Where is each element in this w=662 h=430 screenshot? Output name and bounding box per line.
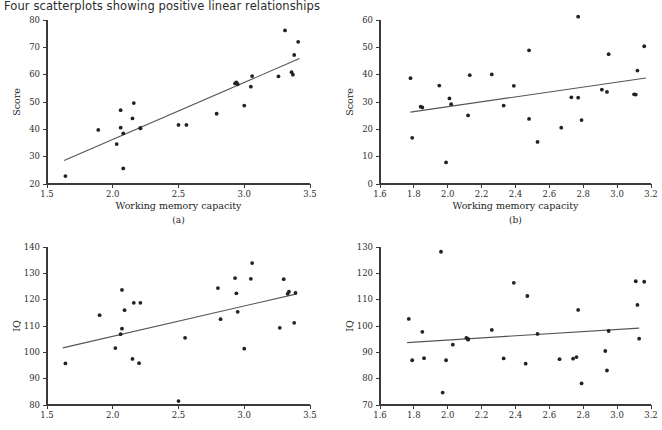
- x-tick-label: 2.0: [441, 189, 455, 199]
- y-tick-label: 50: [29, 97, 40, 107]
- x-tick-label: 2.8: [576, 189, 590, 199]
- data-point: [215, 112, 219, 116]
- data-point: [277, 74, 281, 78]
- data-point: [449, 102, 453, 106]
- data-point: [120, 327, 124, 331]
- data-point: [184, 123, 188, 127]
- data-point: [420, 106, 424, 110]
- x-tick-label: 2.4: [509, 189, 523, 199]
- data-point: [96, 128, 100, 132]
- data-point: [525, 294, 529, 298]
- data-point: [558, 357, 562, 361]
- x-tick-label: 2.0: [106, 189, 120, 199]
- data-point: [502, 356, 506, 360]
- data-point: [524, 362, 528, 366]
- y-tick-label: 30: [29, 151, 40, 161]
- y-tick-label: 20: [362, 124, 373, 134]
- x-tick-label: 1.8: [407, 189, 421, 199]
- data-point: [466, 113, 470, 117]
- data-point: [282, 277, 286, 281]
- x-tick-label: 3.0: [237, 410, 251, 420]
- y-tick-label: 10: [362, 151, 373, 161]
- data-point: [242, 347, 246, 351]
- data-point: [64, 361, 68, 365]
- data-point: [605, 90, 609, 94]
- data-point: [607, 52, 611, 56]
- data-point: [64, 174, 68, 178]
- data-point: [580, 382, 584, 386]
- data-point: [292, 321, 296, 325]
- data-point: [249, 85, 253, 89]
- data-point: [466, 337, 470, 341]
- panel-caption: (b): [509, 215, 522, 225]
- data-point: [448, 97, 452, 101]
- y-tick-label: 40: [362, 69, 373, 79]
- data-point: [441, 391, 445, 395]
- data-point: [287, 290, 291, 294]
- y-tick-label: 0: [368, 179, 373, 189]
- data-point: [119, 126, 123, 130]
- x-tick-label: 3.2: [644, 410, 658, 420]
- x-tick-label: 2.5: [172, 189, 186, 199]
- x-tick-label: 3.0: [610, 410, 624, 420]
- data-point: [605, 369, 609, 373]
- data-point: [250, 261, 254, 265]
- x-tick-label: 1.6: [373, 410, 387, 420]
- y-tick-label: 80: [29, 15, 40, 25]
- data-point: [451, 343, 455, 347]
- data-point: [236, 82, 240, 86]
- data-point: [283, 28, 287, 32]
- x-tick-label: 2.2: [475, 189, 489, 199]
- panel-b-canvas: 01020304050601.61.82.02.22.42.62.83.03.2…: [331, 12, 662, 225]
- y-axis-title: Score: [344, 88, 355, 116]
- x-tick-label: 3.0: [237, 189, 251, 199]
- x-tick-label: 2.6: [543, 410, 557, 420]
- data-point: [296, 40, 300, 44]
- data-point: [115, 142, 119, 146]
- data-point: [138, 126, 142, 130]
- data-point: [569, 95, 573, 99]
- x-tick-label: 2.0: [441, 410, 455, 420]
- data-point: [410, 136, 414, 140]
- y-axis-title: Score: [11, 88, 22, 116]
- data-point: [234, 291, 238, 295]
- data-point: [250, 74, 254, 78]
- y-tick-label: 90: [362, 347, 373, 357]
- data-point: [236, 310, 240, 314]
- data-point: [291, 73, 295, 77]
- data-point: [132, 301, 136, 305]
- data-point: [219, 317, 223, 321]
- regression-line: [407, 328, 639, 342]
- y-tick-label: 110: [357, 294, 373, 304]
- data-point: [603, 349, 607, 353]
- x-tick-label: 3.5: [303, 410, 317, 420]
- data-point: [437, 84, 441, 88]
- data-point: [407, 317, 411, 321]
- data-point: [512, 84, 516, 88]
- data-point: [177, 123, 181, 127]
- scatterplot-panel-a: 203040506070801.52.02.53.03.5ScoreWorkin…: [0, 12, 331, 225]
- scatterplot-panel-c: 80901001101201301401.52.02.53.03.5IQ: [0, 237, 331, 430]
- data-point: [600, 88, 604, 92]
- data-point: [571, 357, 575, 361]
- y-tick-label: 100: [357, 321, 373, 331]
- y-tick-label: 130: [357, 242, 373, 252]
- data-point: [559, 126, 563, 130]
- regression-line: [64, 59, 299, 161]
- data-point: [468, 73, 472, 77]
- data-point: [420, 330, 424, 334]
- y-tick-label: 60: [29, 69, 40, 79]
- data-point: [137, 361, 141, 365]
- data-point-group: [64, 28, 301, 177]
- data-point: [132, 101, 136, 105]
- data-point: [642, 44, 646, 48]
- data-point: [637, 337, 641, 341]
- data-point: [183, 336, 187, 340]
- data-point: [575, 355, 579, 359]
- x-tick-label: 1.6: [373, 189, 387, 199]
- data-point: [634, 279, 638, 283]
- data-point-group: [409, 15, 647, 164]
- data-point: [536, 332, 540, 336]
- data-point-group: [407, 250, 646, 395]
- data-point: [502, 104, 506, 108]
